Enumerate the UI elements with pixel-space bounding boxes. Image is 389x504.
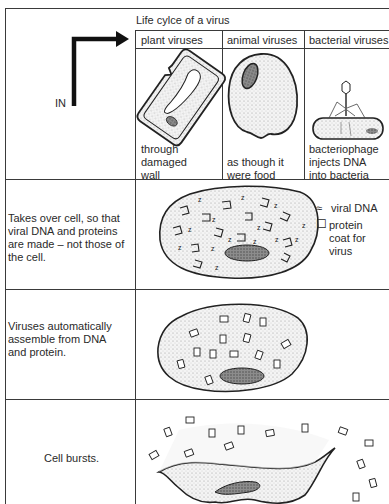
stage-3-description: Cell bursts. xyxy=(44,452,99,465)
svg-text:z: z xyxy=(215,264,219,271)
viral-dna-icon: ≈ xyxy=(316,202,328,215)
svg-text:z: z xyxy=(275,236,279,243)
legend: ≈ viral DNA ☐ protein coat for virus xyxy=(316,202,378,258)
svg-text:z: z xyxy=(211,245,215,252)
bacteriophage-illustration xyxy=(305,48,389,143)
svg-text:z: z xyxy=(212,216,216,223)
animal-cell-illustration xyxy=(223,48,303,148)
takeover-cell-illustration: zzzz zzzz zzzz zz xyxy=(150,182,330,287)
svg-text:z: z xyxy=(188,226,192,233)
svg-text:z: z xyxy=(241,194,245,201)
svg-text:z: z xyxy=(178,244,182,251)
plant-cell-illustration xyxy=(136,48,226,148)
svg-text:z: z xyxy=(198,196,202,203)
protein-coat-icon: ☐ xyxy=(316,218,327,231)
svg-text:z: z xyxy=(274,202,278,209)
svg-text:z: z xyxy=(302,222,306,229)
legend-item-viral-dna: ≈ viral DNA xyxy=(316,202,378,215)
cell-burst-illustration xyxy=(139,400,389,504)
stage-2-description: Viruses automatically assemble from DNA … xyxy=(8,320,112,359)
svg-text:z: z xyxy=(253,238,257,245)
assembly-cell-illustration xyxy=(152,296,312,396)
stage-1-description: Takes over cell, so that viral DNA and p… xyxy=(8,212,124,264)
legend-item-protein-coat: ☐ protein coat for virus xyxy=(316,219,378,258)
svg-text:z: z xyxy=(295,236,299,243)
in-label: IN xyxy=(55,97,66,110)
svg-text:z: z xyxy=(228,236,232,243)
svg-text:z: z xyxy=(257,224,261,231)
